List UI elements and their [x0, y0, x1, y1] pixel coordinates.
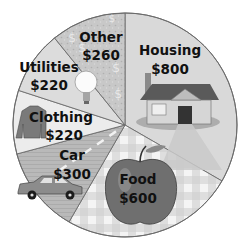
pie-chart: $ $ $ $ $ Housing$800Food$600Car$300Clot… — [0, 0, 241, 241]
slice-value-housing: $800 — [151, 61, 189, 77]
slice-value-food: $600 — [119, 190, 157, 206]
svg-text:$: $ — [109, 13, 115, 24]
slice-label-clothing: Clothing — [29, 109, 93, 125]
svg-text:$: $ — [112, 61, 120, 75]
pie-chart-svg: $ $ $ $ $ Housing$800Food$600Car$300Clot… — [0, 0, 241, 241]
svg-text:$: $ — [68, 31, 76, 45]
slice-label-utilities: Utilities — [19, 59, 79, 75]
svg-text:$: $ — [114, 87, 122, 101]
slice-value-other: $260 — [82, 47, 120, 63]
slice-label-housing: Housing — [139, 42, 201, 58]
slice-label-car: Car — [59, 147, 85, 163]
slice-label-food: Food — [120, 171, 157, 187]
slice-value-car: $300 — [53, 166, 91, 182]
slice-value-clothing: $220 — [45, 127, 83, 143]
slice-label-other: Other — [79, 29, 123, 45]
slice-value-utilities: $220 — [30, 77, 68, 93]
